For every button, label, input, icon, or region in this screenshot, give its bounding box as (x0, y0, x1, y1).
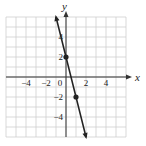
line-graph: −4−202442−2−4 x y (0, 0, 146, 146)
line-arrow-down-icon (83, 132, 88, 138)
data-point (63, 54, 68, 59)
x-axis-arrow-icon (126, 75, 132, 80)
x-axis-label: x (134, 71, 140, 83)
axes (6, 11, 132, 137)
x-tick-label: 0 (58, 78, 63, 88)
data-point (73, 94, 78, 99)
x-tick-label: 2 (84, 78, 89, 88)
x-tick-label: 4 (104, 78, 109, 88)
y-tick-label: 2 (59, 52, 64, 62)
x-tick-label: −4 (21, 78, 31, 88)
y-axis-label: y (61, 0, 67, 12)
x-tick-label: −2 (41, 78, 51, 88)
y-tick-label: −4 (53, 112, 63, 122)
y-tick-label: −2 (53, 92, 63, 102)
line-arrow-up-icon (54, 15, 59, 21)
